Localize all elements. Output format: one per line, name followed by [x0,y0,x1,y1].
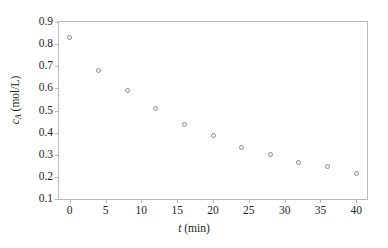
y-axis-tick-label: 0.5 [39,105,53,117]
y-axis-tick [55,155,59,156]
data-point [96,68,101,73]
data-point [325,164,330,169]
x-axis-units: (min) [184,222,210,234]
y-axis-tick-label: 0.4 [39,127,53,139]
data-point [296,160,301,165]
x-axis-tick [213,199,214,203]
y-axis-tick [55,199,59,200]
x-axis-tick [356,199,357,203]
x-axis-tick-label: 35 [315,205,327,217]
x-axis-tick-label: 20 [207,205,219,217]
y-axis-tick-label: 0.2 [39,171,53,183]
data-point [268,152,273,157]
y-axis-tick-label: 0.6 [39,83,53,95]
x-axis-symbol: t [178,222,181,234]
x-axis-tick [177,199,178,203]
x-axis-tick [249,199,250,203]
x-axis-tick [285,199,286,203]
x-axis-tick-label: 15 [171,205,183,217]
data-point [211,133,216,138]
y-axis-tick [55,177,59,178]
x-axis-tick-label: 10 [136,205,148,217]
data-point [125,88,130,93]
y-axis-tick [55,111,59,112]
y-axis-tick-label: 0.9 [39,16,53,28]
x-axis-tick [106,199,107,203]
x-axis-label: t (min) [0,222,388,234]
scatter-chart-figure: cA (mol/L) 0.10.20.30.40.50.60.70.80.905… [0,0,388,248]
x-axis-tick [141,199,142,203]
y-axis-units: (mol/L) [9,76,21,112]
x-axis-tick-label: 0 [67,205,73,217]
x-axis-tick-label: 30 [279,205,291,217]
y-axis-tick [55,44,59,45]
data-point [354,171,359,176]
x-axis-tick [320,199,321,203]
y-axis-tick [55,66,59,67]
y-axis-tick-label: 0.8 [39,38,53,50]
y-axis-tick-label: 0.3 [39,149,53,161]
y-axis-label: cA (mol/L) [6,0,26,200]
plot-area: 0.10.20.30.40.50.60.70.80.90510152025303… [59,22,367,199]
y-axis-tick [55,22,59,23]
x-axis-tick-label: 25 [243,205,255,217]
data-point [153,106,158,111]
y-axis-tick-label: 0.7 [39,61,53,73]
y-axis-symbol: c [9,119,21,124]
x-axis-tick [70,199,71,203]
y-axis-label-text: cA (mol/L) [9,76,23,125]
y-axis-tick [55,88,59,89]
plot-frame: 0.10.20.30.40.50.60.70.80.90510152025303… [58,21,368,200]
x-axis-tick-label: 40 [351,205,363,217]
y-axis-tick [55,133,59,134]
data-point [67,35,72,40]
x-axis-tick-label: 5 [103,205,109,217]
y-axis-subscript: A [14,114,23,119]
y-axis-tick-label: 0.1 [39,193,53,205]
data-point [182,122,187,127]
data-point [239,145,244,150]
